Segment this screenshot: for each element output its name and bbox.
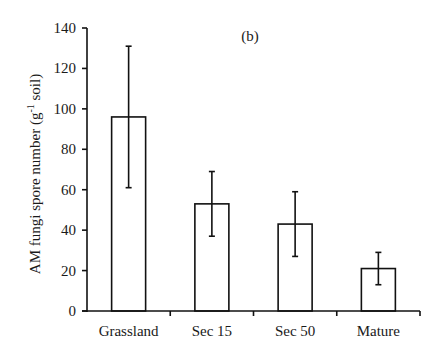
bar-chart: 020406080100120140 GrasslandSec 15Sec 50… [0, 0, 445, 359]
x-tick-label: Mature [357, 323, 401, 339]
y-tick-label: 0 [69, 303, 77, 319]
y-axis-ticks: 020406080100120140 [54, 20, 88, 319]
y-tick-label: 100 [54, 101, 77, 117]
y-tick-label: 20 [61, 263, 76, 279]
y-tick-label: 60 [61, 182, 76, 198]
x-tick-label: Sec 15 [192, 323, 232, 339]
x-tick-label: Sec 50 [275, 323, 315, 339]
panel-label: (b) [241, 28, 259, 45]
y-axis-label: AM fungi spore number (g-1 soil) [25, 74, 44, 274]
x-axis-ticks: GrasslandSec 15Sec 50Mature [99, 311, 420, 339]
y-tick-label: 40 [61, 222, 76, 238]
y-tick-label: 140 [54, 20, 77, 36]
y-tick-label: 80 [61, 141, 76, 157]
y-tick-label: 120 [54, 60, 77, 76]
x-tick-label: Grassland [99, 323, 159, 339]
bars [112, 46, 396, 311]
